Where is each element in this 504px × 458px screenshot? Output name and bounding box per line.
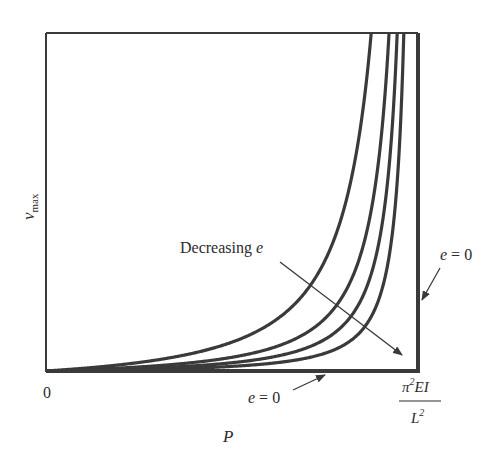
deflection-curve-2 bbox=[46, 33, 389, 371]
deflection-curves bbox=[46, 33, 404, 371]
e-zero-bottom-label: e = 0 bbox=[248, 389, 280, 406]
x-axis-label: P bbox=[222, 427, 233, 446]
e-zero-curve bbox=[46, 33, 418, 371]
decreasing-e-arrow bbox=[280, 262, 402, 355]
e-zero-bottom-rest: = 0 bbox=[255, 389, 280, 406]
l-exponent: 2 bbox=[419, 407, 424, 418]
e-zero-right-label: e = 0 bbox=[440, 246, 472, 263]
critical-load-numerator: π2EI bbox=[402, 376, 430, 395]
deflection-diagram: Decreasing e e = 0 e = 0 0 π2EI L2 P vma… bbox=[0, 0, 504, 458]
ei-text: EI bbox=[414, 379, 430, 395]
e-zero-bottom-variable: e bbox=[248, 389, 255, 406]
decreasing-e-text: Decreasing bbox=[180, 239, 256, 257]
decreasing-e-label: Decreasing e bbox=[180, 239, 263, 257]
e-zero-bottom-arrow bbox=[293, 375, 325, 390]
e-zero-right-arrow bbox=[422, 268, 440, 300]
y-axis-label: vmax bbox=[19, 193, 40, 220]
origin-label: 0 bbox=[43, 384, 51, 401]
e-zero-right-variable: e bbox=[440, 246, 447, 263]
critical-load-denominator: L2 bbox=[410, 407, 424, 426]
l-symbol: L bbox=[410, 410, 419, 426]
e-zero-right-rest: = 0 bbox=[447, 246, 472, 263]
deflection-curve-4 bbox=[46, 33, 404, 371]
y-axis-subscript: max bbox=[28, 193, 40, 212]
decreasing-e-variable: e bbox=[256, 239, 263, 256]
